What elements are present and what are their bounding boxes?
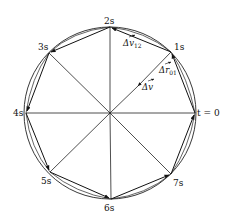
- label-6s: 6s: [104, 203, 115, 213]
- label-3s: 3s: [38, 42, 49, 52]
- label-5s: 5s: [41, 176, 52, 186]
- label-4s: 4s: [13, 108, 24, 118]
- label-delta-v12: Δv12: [122, 38, 142, 49]
- vector-bar-r01: [165, 62, 171, 64]
- label-2s: 2s: [104, 16, 115, 26]
- circular-motion-diagram: t = 0 1s 2s 3s 4s 5s 6s 7s Δv12 Δr01 Δv: [0, 0, 225, 223]
- label-1s: 1s: [174, 42, 185, 52]
- label-t0: t = 0: [197, 108, 220, 118]
- delta-v-line: [110, 86, 138, 113]
- label-7s: 7s: [173, 178, 184, 188]
- label-delta-r01: Δr01: [158, 65, 177, 76]
- label-delta-v: Δv: [141, 82, 153, 92]
- vector-bar-v: [148, 79, 154, 81]
